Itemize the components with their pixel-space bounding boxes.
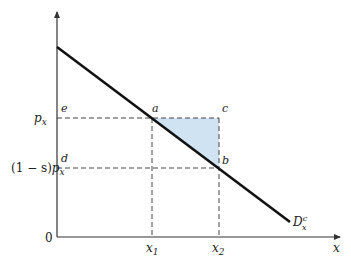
point-label-c: c <box>222 102 228 115</box>
demand-curve-label: Dcx <box>292 214 308 232</box>
y-tick-px: px <box>34 111 47 127</box>
point-label-d: d <box>61 152 68 165</box>
x-tick-x2: x2 <box>212 241 225 257</box>
point-label-e: e <box>61 102 68 115</box>
origin-label: 0 <box>45 231 53 245</box>
diagram-canvas: px (1 − s)px 0 x1 x2 x e d a c b Dcx <box>0 0 351 263</box>
x-axis-label: x <box>333 241 340 255</box>
point-label-a: a <box>152 102 159 115</box>
x-tick-x1: x1 <box>146 241 159 257</box>
demand-curve <box>57 47 290 222</box>
point-label-b: b <box>222 154 229 167</box>
y-tick-1-s-px: (1 − s)px <box>11 161 65 177</box>
